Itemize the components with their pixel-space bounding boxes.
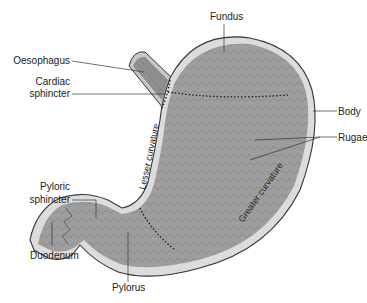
label-duodenum: Duodenum <box>30 250 79 261</box>
label-oesophagus: Oesophagus <box>0 55 70 66</box>
label-pylorus: Pylorus <box>112 282 145 293</box>
label-cardiac-sphincter-line1: Cardiac <box>0 76 70 87</box>
label-pyloric-sphincter-line1: Pyloric <box>0 181 70 192</box>
label-fundus: Fundus <box>210 11 243 22</box>
label-rugae: Rugae <box>338 132 367 143</box>
label-cardiac-sphincter-line2: sphincter <box>0 88 70 99</box>
label-body: Body <box>338 106 361 117</box>
label-pyloric-sphincter-line2: sphincter <box>0 194 70 205</box>
stomach-shape <box>30 37 315 276</box>
